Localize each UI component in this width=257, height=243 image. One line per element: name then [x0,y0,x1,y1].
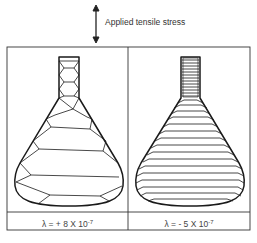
left-body-domains [16,98,122,204]
diagram-canvas [0,0,257,243]
caption-positive-lambda: λ = + 8 X 10-7 [7,215,128,229]
left-flask-outline [15,57,124,206]
left-neck-domains [59,61,79,98]
left-specimen [15,57,124,206]
right-flask-outline [136,57,245,206]
right-specimen [136,57,245,206]
caption-right-exponent: -7 [208,219,213,225]
caption-left-exponent: -7 [88,219,93,225]
caption-left-text: λ = + 8 X 10 [42,219,88,229]
caption-negative-lambda: λ = - 5 X 10-7 [128,215,250,229]
figure-frame [7,47,250,230]
right-neck-domains [182,58,199,97]
stress-arrow-icon [93,5,99,43]
caption-right-text: λ = - 5 X 10 [164,219,208,229]
stress-label: Applied tensile stress [105,17,185,27]
right-body-domains [136,100,244,201]
